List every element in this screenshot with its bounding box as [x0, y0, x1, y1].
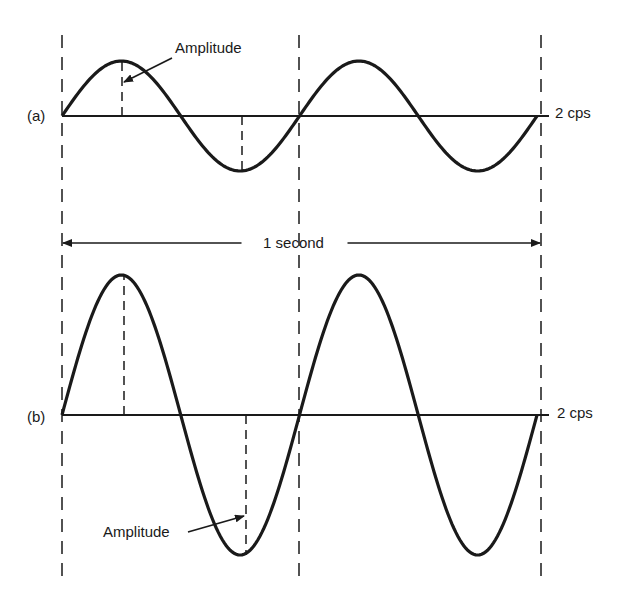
- panel-label-a: (a): [27, 107, 45, 124]
- diagram-canvas: 1 second (a) 2 cps Amplitude (b) 2 cps A…: [0, 0, 626, 606]
- panel-label-b: (b): [27, 408, 45, 425]
- time-span-label: 1 second: [263, 234, 324, 251]
- amplitude-label-b: Amplitude: [103, 523, 170, 540]
- panel-b-high-amplitude: (b) 2 cps Amplitude: [27, 275, 593, 555]
- frequency-label-a: 2 cps: [555, 104, 591, 121]
- time-span-indicator: 1 second: [63, 234, 540, 251]
- sine-wave-amplitude-diagram: 1 second (a) 2 cps Amplitude (b) 2 cps A…: [0, 0, 626, 606]
- amplitude-label-a: Amplitude: [175, 39, 242, 56]
- frequency-label-b: 2 cps: [557, 404, 593, 421]
- panel-a-low-amplitude: (a) 2 cps Amplitude: [27, 39, 591, 171]
